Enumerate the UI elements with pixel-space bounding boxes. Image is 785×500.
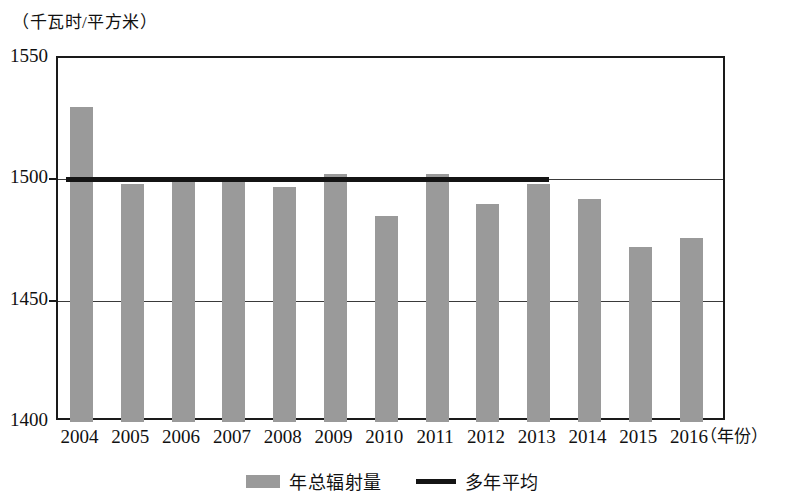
bar-2007 (222, 177, 245, 422)
legend-bar-swatch-icon (246, 475, 280, 488)
x-tick-label-2011: 2011 (407, 426, 463, 448)
x-tick-label-2010: 2010 (356, 426, 412, 448)
bar-2004 (70, 107, 93, 422)
multi-year-average-line (66, 177, 549, 182)
bar-2013 (527, 184, 550, 422)
x-tick-label-2004: 2004 (52, 426, 108, 448)
y-tick-label-1550: 1550 (0, 46, 48, 65)
x-tick-label-2007: 2007 (204, 426, 260, 448)
x-axis-unit-label: （年份） (700, 426, 768, 448)
x-tick-label-2006: 2006 (153, 426, 209, 448)
x-tick-label-2014: 2014 (560, 426, 616, 448)
y-tick-1450 (49, 300, 58, 302)
bar-2012 (476, 204, 499, 422)
x-tick-label-2012: 2012 (458, 426, 514, 448)
x-tick-label-2008: 2008 (255, 426, 311, 448)
y-tick-label-1500: 1500 (0, 167, 48, 186)
x-tick-label-2009: 2009 (306, 426, 362, 448)
legend-item-multi-year-average: 多年平均 (416, 468, 539, 494)
bar-2009 (324, 174, 347, 422)
chart-legend: 年总辐射量 多年平均 (0, 468, 785, 494)
bar-2005 (121, 184, 144, 422)
y-tick-1500 (49, 178, 58, 180)
legend-line-swatch-icon (416, 479, 456, 484)
x-tick-label-2005: 2005 (102, 426, 158, 448)
x-tick-label-2013: 2013 (509, 426, 565, 448)
plot-area (56, 56, 725, 420)
bar-2008 (273, 187, 296, 422)
y-tick-label-1400: 1400 (0, 410, 48, 429)
bar-2014 (578, 199, 601, 422)
y-axis-unit-label: （千瓦时/平方米） (12, 8, 157, 33)
bar-2006 (172, 177, 195, 422)
bar-2016 (680, 238, 703, 422)
legend-label-multi-year-average: 多年平均 (465, 468, 539, 494)
bar-2010 (375, 216, 398, 422)
bar-2011 (426, 174, 449, 422)
legend-item-annual-total-radiation: 年总辐射量 (246, 468, 382, 494)
x-tick-label-2015: 2015 (610, 426, 666, 448)
bar-2015 (629, 247, 652, 422)
y-tick-label-1450: 1450 (0, 289, 48, 308)
legend-label-annual-total-radiation: 年总辐射量 (289, 468, 382, 494)
chart-figure: （千瓦时/平方米） 1400145015001550 2004200520062… (0, 0, 785, 500)
